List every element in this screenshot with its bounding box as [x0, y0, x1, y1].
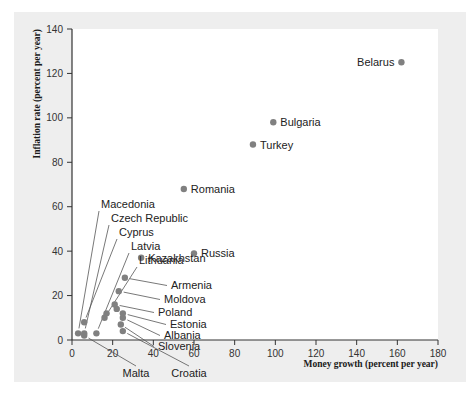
data-point	[120, 328, 126, 334]
plot-area-background	[72, 29, 438, 340]
data-point	[270, 119, 276, 125]
point-label-latvia: Latvia	[131, 240, 161, 252]
y-tick-label: 80	[52, 157, 64, 168]
data-point	[114, 306, 120, 312]
data-point	[398, 59, 404, 65]
point-label-armenia: Armenia	[171, 279, 213, 291]
y-tick-label: 60	[52, 201, 64, 212]
y-axis-title: Inflation rate (percent per year)	[32, 29, 43, 158]
point-label-slovenia: Slovenia	[158, 340, 201, 352]
x-axis-ticks: 020406080100120140160180	[69, 340, 447, 359]
data-point	[103, 310, 109, 316]
data-point	[116, 288, 122, 294]
scatter-plot: 020406080100120140 020406080100120140160…	[14, 12, 466, 382]
point-label-malta: Malta	[123, 367, 151, 379]
data-point	[181, 186, 187, 192]
y-axis-ticks: 020406080100120140	[46, 24, 72, 346]
y-tick-label: 100	[46, 112, 63, 123]
point-label-croatia: Croatia	[171, 367, 207, 379]
data-point	[120, 315, 126, 321]
data-point	[81, 319, 87, 325]
x-tick-label: 180	[430, 348, 447, 359]
x-tick-label: 160	[389, 348, 406, 359]
point-label-romania: Romania	[191, 183, 236, 195]
x-tick-label: 140	[348, 348, 365, 359]
point-label-moldova: Moldova	[164, 293, 206, 305]
y-tick-label: 0	[57, 335, 63, 346]
y-tick-label: 20	[52, 290, 64, 301]
data-point	[75, 330, 81, 336]
data-point	[93, 330, 99, 336]
figure-card: 020406080100120140 020406080100120140160…	[14, 12, 466, 382]
point-label-russia: Russia	[201, 247, 236, 259]
x-tick-label: 0	[69, 348, 75, 359]
data-point	[81, 332, 87, 338]
data-point	[118, 321, 124, 327]
point-label-lithuania: Lithuania	[139, 254, 185, 266]
x-tick-label: 100	[267, 348, 284, 359]
point-label-bulgaria: Bulgaria	[280, 116, 321, 128]
point-label-macedonia: Macedonia	[101, 198, 156, 210]
x-axis-title: Money growth (percent per year)	[303, 359, 438, 370]
point-label-poland: Poland	[158, 306, 192, 318]
x-tick-label: 80	[229, 348, 241, 359]
y-tick-label: 120	[46, 68, 63, 79]
point-label-czech-republic: Czech Republic	[111, 212, 189, 224]
point-label-belarus: Belarus	[357, 56, 395, 68]
data-point	[122, 275, 128, 281]
y-tick-label: 40	[52, 246, 64, 257]
y-tick-label: 140	[46, 24, 63, 35]
x-tick-label: 120	[308, 348, 325, 359]
data-point	[250, 141, 256, 147]
point-label-cyprus: Cyprus	[119, 226, 154, 238]
point-label-turkey: Turkey	[260, 139, 294, 151]
